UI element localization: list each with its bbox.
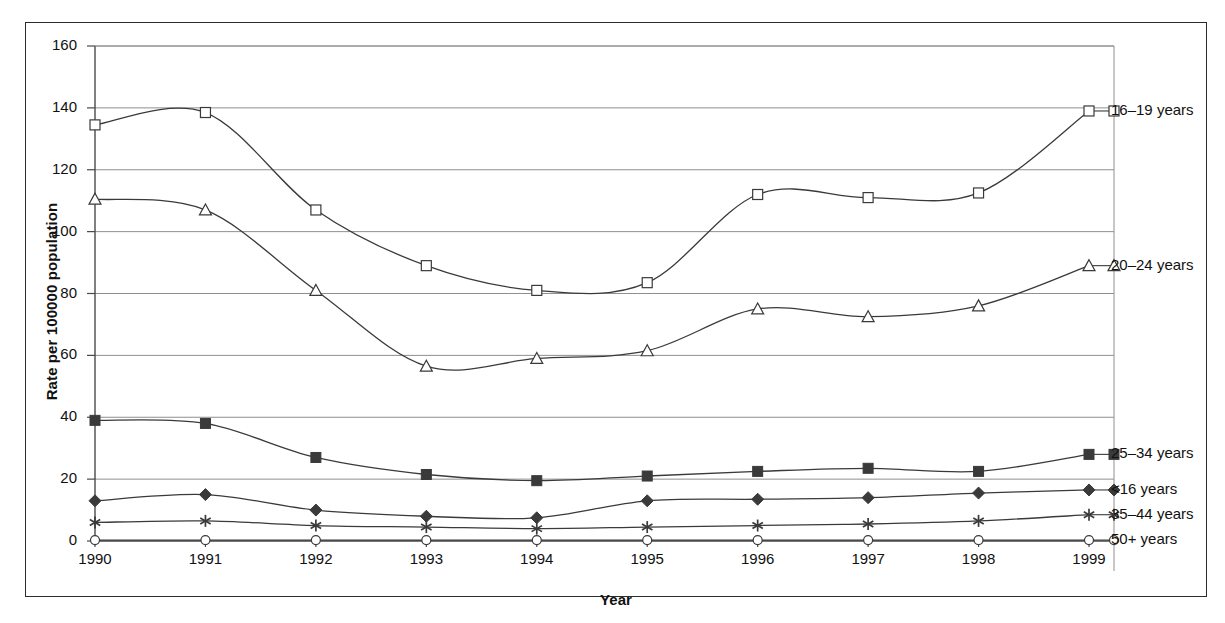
data-point-marker	[311, 205, 321, 215]
data-point-marker	[421, 261, 431, 271]
series-line	[95, 490, 1089, 519]
data-point-marker	[974, 188, 984, 198]
data-point-marker	[1085, 536, 1094, 545]
data-point-marker	[752, 493, 764, 505]
data-point-marker	[199, 204, 211, 215]
data-point-marker	[91, 536, 100, 545]
x-tick-label: 1991	[170, 550, 240, 567]
data-point-marker	[1084, 106, 1094, 116]
data-point-marker	[974, 466, 984, 476]
series-line	[95, 515, 1089, 529]
data-point-marker	[420, 360, 432, 371]
data-point-marker	[642, 471, 652, 481]
data-point-marker	[753, 466, 763, 476]
data-point-marker	[864, 536, 873, 545]
x-tick-label: 1998	[944, 550, 1014, 567]
axes-group	[87, 46, 1114, 571]
y-axis-title: Rate per 100000 population	[43, 72, 60, 532]
data-point-marker	[753, 536, 762, 545]
x-tick-label: 1997	[833, 550, 903, 567]
data-point-marker	[310, 504, 322, 516]
data-point-marker	[642, 278, 652, 288]
line-chart-plot	[26, 23, 1208, 598]
x-tick-label: 1990	[60, 550, 130, 567]
data-point-marker	[422, 536, 431, 545]
data-point-marker	[311, 536, 320, 545]
gridlines-group	[95, 46, 1114, 479]
data-point-marker	[89, 495, 101, 507]
data-point-marker	[532, 536, 541, 545]
x-tick-label: 1992	[281, 550, 351, 567]
series-label: <16 years	[1111, 480, 1177, 497]
data-point-marker	[199, 489, 211, 501]
data-point-marker	[862, 492, 874, 504]
series-label: 25–34 years	[1111, 444, 1194, 461]
data-point-marker	[641, 495, 653, 507]
data-point-marker	[310, 284, 322, 295]
series-line	[95, 420, 1089, 481]
data-point-marker	[531, 512, 543, 524]
series-label: 20–24 years	[1111, 256, 1194, 273]
data-point-marker	[420, 510, 432, 522]
x-tick-label: 1994	[502, 550, 572, 567]
y-tick-label: 160	[17, 36, 77, 53]
data-point-marker	[201, 536, 210, 545]
x-tick-label: 1995	[612, 550, 682, 567]
data-point-marker	[200, 108, 210, 118]
series-lines-group	[95, 108, 1114, 540]
x-axis-title: Year	[526, 591, 706, 608]
data-point-marker	[311, 452, 321, 462]
series-line	[95, 199, 1089, 370]
data-point-marker	[643, 536, 652, 545]
data-point-marker	[974, 536, 983, 545]
data-point-marker	[200, 418, 210, 428]
figure-container: 020406080100120140160 199019911992199319…	[0, 0, 1225, 623]
data-point-marker	[863, 193, 873, 203]
chart-frame: 020406080100120140160 199019911992199319…	[25, 22, 1207, 597]
data-point-marker	[90, 415, 100, 425]
x-tick-label: 1996	[723, 550, 793, 567]
data-point-marker	[532, 285, 542, 295]
series-line	[95, 108, 1089, 294]
x-tick-label: 1993	[391, 550, 461, 567]
series-label: 50+ years	[1111, 530, 1177, 547]
data-point-marker	[973, 487, 985, 499]
data-point-marker	[89, 193, 101, 204]
series-label: 16–19 years	[1111, 101, 1194, 118]
data-point-marker	[532, 476, 542, 486]
data-point-marker	[421, 469, 431, 479]
data-point-marker	[1083, 484, 1095, 496]
series-label: 35–44 years	[1111, 505, 1194, 522]
data-point-marker	[1084, 449, 1094, 459]
data-point-marker	[863, 463, 873, 473]
x-tick-label: 1999	[1054, 550, 1124, 567]
data-point-marker	[90, 120, 100, 130]
data-point-marker	[753, 190, 763, 200]
y-tick-label: 0	[17, 531, 77, 548]
